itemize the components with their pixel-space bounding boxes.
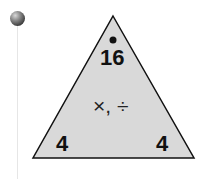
fact-triangle (0, 0, 212, 179)
operations-label: ×, ÷ (93, 95, 128, 116)
top-number: 16 (100, 47, 124, 69)
bottom-right-number: 4 (156, 133, 168, 155)
top-dot-icon (110, 37, 117, 44)
bottom-left-number: 4 (56, 133, 68, 155)
